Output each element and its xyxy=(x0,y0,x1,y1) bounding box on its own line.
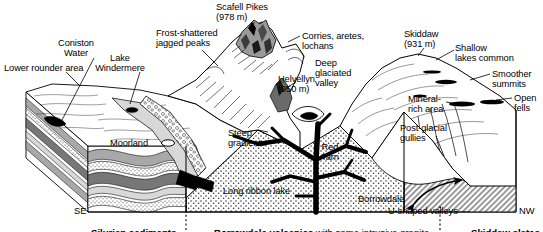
map-label-corries-aretes: Corries, aretes, lochans xyxy=(302,31,364,51)
windermere-island xyxy=(126,107,138,112)
legend-borrowdale-bold: Borrowdale volcanics xyxy=(214,227,313,232)
legend-borrowdale-volcanics: Borrowdale volcanics with some intrusive… xyxy=(198,216,432,232)
corner-nw: NW xyxy=(519,206,535,216)
map-label-deep-glaciated: Deep glaciated valley xyxy=(315,58,351,89)
map-label-red-tarn: Red Tarn xyxy=(270,142,390,162)
leader-frost-shattered xyxy=(202,50,218,66)
block-diagram-illustration xyxy=(0,0,543,232)
map-label-helvellyn: Helvellyn (950 m) xyxy=(278,74,315,94)
legend-silurian-sediments: Silurian sediments xyxy=(75,216,176,232)
map-label-frost-shattered: Frost-shattered jagged peaks xyxy=(156,28,218,48)
skiddaw-slates-wall xyxy=(470,186,516,212)
legend-skiddaw-slates: Skiddaw slates xyxy=(455,216,540,232)
map-label-lake-windermere: Lake Windermere xyxy=(60,53,180,73)
map-label-borrowdale-valley: Borrowdale xyxy=(358,194,404,204)
map-label-shallow-lakes: Shallow lakes common xyxy=(455,43,514,63)
map-label-open-fells: Open fells xyxy=(514,93,536,113)
map-label-skiddaw-peak: Skiddaw (931 m) xyxy=(404,29,438,49)
map-label-steep-gradients: Steep gradients xyxy=(228,128,265,148)
leader-corries-aretes xyxy=(288,36,300,42)
map-label-u-shaped-valleys: U-shaped valleys xyxy=(388,206,458,216)
geological-block-diagram: Lower rounder areaConiston WaterLake Win… xyxy=(0,0,543,232)
leader-shallow-lakes xyxy=(436,50,454,60)
legend-silurian-bold: Silurian sediments xyxy=(91,227,176,232)
windermere-island-2 xyxy=(162,140,175,146)
legend-skiddaw-bold: Skiddaw slates xyxy=(471,227,540,232)
leader-lower-rounder-area xyxy=(66,72,80,86)
map-label-moorland: Moorland xyxy=(110,138,148,148)
legend-borrowdale-rest: with some intrusive granite. xyxy=(313,227,432,232)
map-label-scafell-pikes: Scafell Pikes (978 m) xyxy=(216,2,268,22)
map-label-post-glacial: Post-glacial gullies xyxy=(400,123,447,143)
map-label-long-ribbon-lake: Long ribbon lake xyxy=(223,186,290,196)
corner-se: SE xyxy=(74,206,86,216)
map-label-mineral-rich: Mineral- rich area xyxy=(408,94,443,114)
leader-smoother-summits xyxy=(470,74,490,80)
map-label-smoother-summits: Smoother summits xyxy=(492,69,532,89)
